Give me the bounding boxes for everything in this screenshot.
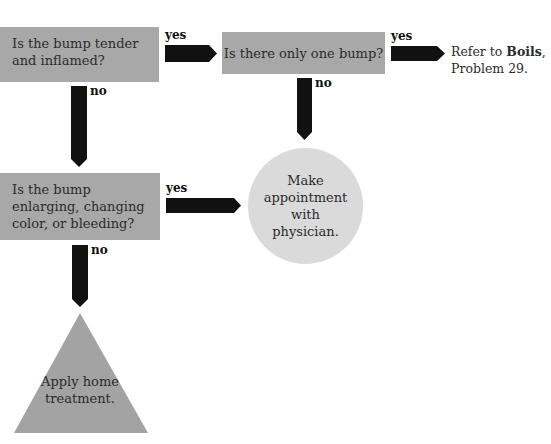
arrow-q2-yes [391, 46, 445, 61]
question-box-enlarging: Is the bump enlarging, changing color, o… [0, 173, 160, 240]
refer-problem: Problem 29. [451, 61, 528, 76]
refer-suffix: , [542, 44, 546, 59]
question-text: Is there only one bump? [224, 45, 383, 62]
label-q2-yes: yes [391, 29, 412, 43]
outcome-appointment-circle: Make appointment with physician. [248, 148, 363, 264]
question-box-one-bump: Is there only one bump? [222, 32, 385, 74]
question-box-tender: Is the bump tender and inflamed? [0, 27, 159, 82]
refer-prefix: Refer to [451, 44, 506, 59]
arrow-q3-no [72, 245, 88, 307]
label-q3-yes: yes [166, 181, 187, 195]
question-text: Is the bump tender and inflamed? [12, 36, 138, 68]
label-q1-no: no [90, 84, 107, 98]
refer-topic: Boils [506, 44, 541, 59]
label-q3-no: no [91, 243, 108, 257]
outcome-refer-boils: Refer to Boils, Problem 29. [451, 43, 546, 77]
question-text: Is the bump enlarging, changing color, o… [12, 182, 145, 231]
label-q1-yes: yes [165, 28, 186, 42]
arrow-q3-yes [166, 198, 241, 213]
label-q2-no: no [315, 76, 332, 90]
home-treatment-text: Apply home treatment. [40, 373, 120, 407]
appointment-text: Make appointment with physician. [258, 172, 354, 240]
arrow-q1-no [71, 86, 87, 167]
arrow-q1-yes [165, 45, 217, 62]
arrow-q2-no [297, 78, 312, 140]
